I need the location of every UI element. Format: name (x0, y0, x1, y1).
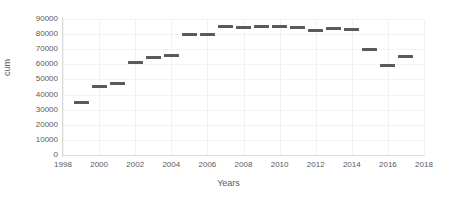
x-axis-tick-label: 2006 (187, 160, 227, 169)
y-axis-title: cum (2, 59, 12, 76)
x-axis-tick-label: 2000 (79, 160, 119, 169)
chart-container: 0100002000030000400005000060000700008000… (0, 0, 457, 202)
x-axis-tick-label: 2008 (224, 160, 264, 169)
x-axis-tick-label: 2010 (260, 160, 300, 169)
x-axis-tick-label: 2004 (151, 160, 191, 169)
x-axis-title: Years (0, 178, 457, 188)
x-axis-tick-label: 2016 (368, 160, 408, 169)
x-axis-tick-label: 2002 (115, 160, 155, 169)
x-axis-tick-label: 2014 (332, 160, 372, 169)
x-axis-tick-label: 2012 (296, 160, 336, 169)
x-axis-tick-label: 1998 (43, 160, 83, 169)
x-axis-tick-label: 2018 (404, 160, 444, 169)
x-axis-tick-labels: 1998200020022004200620082010201220142016… (0, 0, 457, 202)
